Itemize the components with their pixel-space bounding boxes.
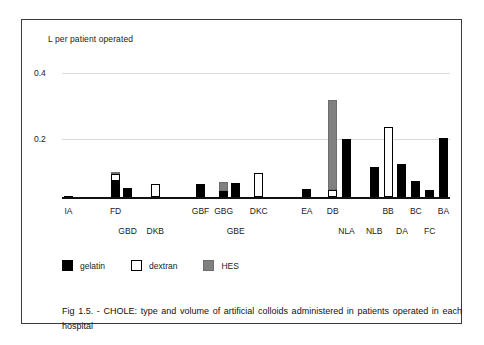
bar-nla <box>342 139 351 197</box>
bar-bb <box>384 127 393 197</box>
bar-segment-gelatin <box>397 164 406 197</box>
bar-fd <box>111 172 120 197</box>
bar-segment-gelatin <box>196 184 205 197</box>
legend-item-dextran: dextran <box>131 260 177 271</box>
legend-swatch-gelatin-icon <box>62 260 73 271</box>
bar-bc <box>411 181 420 197</box>
legend-label-gelatin: gelatin <box>80 261 105 271</box>
y-tick-0-4: 0.4 <box>34 68 60 78</box>
bar-db <box>328 100 337 197</box>
x-label-bc: BC <box>410 206 422 216</box>
x-label-nla: NLA <box>338 226 355 236</box>
bar-segment-hes <box>328 100 337 190</box>
x-label-dkc: DKC <box>250 206 268 216</box>
bar-segment-gelatin <box>370 167 379 197</box>
bar-series-container <box>62 30 450 197</box>
x-label-ba: BA <box>438 206 449 216</box>
x-label-dkb: DKB <box>147 226 164 236</box>
x-label-fd: FD <box>110 206 121 216</box>
bar-gbf <box>196 184 205 197</box>
bar-segment-gelatin <box>439 138 448 197</box>
bar-segment-dextran <box>151 184 160 197</box>
figure-caption: Fig 1.5. - CHOLE: type and volume of art… <box>62 304 462 334</box>
legend-label-hes: HES <box>221 261 238 271</box>
figure-frame: L per patient operated 0.4 0.2 IAFDGBDDK… <box>21 19 462 324</box>
x-label-ia: IA <box>64 206 72 216</box>
bar-segment-dextran <box>111 174 120 181</box>
bar-da <box>397 164 406 197</box>
bar-gbg <box>219 182 228 197</box>
x-label-ea: EA <box>301 206 312 216</box>
x-label-da: DA <box>396 226 408 236</box>
bar-segment-dextran <box>384 127 393 197</box>
x-label-bb: BB <box>382 206 393 216</box>
bar-segment-gelatin <box>302 189 311 197</box>
bar-gbd <box>123 188 132 197</box>
bar-segment-gelatin <box>231 183 240 197</box>
x-label-nlb: NLB <box>366 226 383 236</box>
legend-swatch-hes-icon <box>203 260 214 271</box>
bar-segment-gelatin <box>111 181 120 197</box>
x-label-gbg: GBG <box>214 206 233 216</box>
bar-nlb <box>370 167 379 197</box>
x-axis-baseline <box>62 197 450 199</box>
x-axis-labels: IAFDGBDDKBGBFGBGGBEDKCEADBNLANLBBBDABCFC… <box>62 201 450 245</box>
bar-dkb <box>151 184 160 197</box>
x-label-gbf: GBF <box>192 206 209 216</box>
bar-dkc <box>254 173 263 197</box>
chart-plot-area: L per patient operated 0.4 0.2 IAFDGBDDK… <box>34 30 450 245</box>
bar-fc <box>425 190 434 197</box>
x-label-db: DB <box>327 206 339 216</box>
figure-page: L per patient operated 0.4 0.2 IAFDGBDDK… <box>0 0 484 345</box>
x-label-gbe: GBE <box>227 226 245 236</box>
y-tick-0-2: 0.2 <box>34 134 60 144</box>
legend-item-hes: HES <box>203 260 238 271</box>
legend-item-gelatin: gelatin <box>62 260 105 271</box>
bar-segment-gelatin <box>411 181 420 197</box>
x-label-gbd: GBD <box>118 226 136 236</box>
bar-segment-gelatin <box>342 139 351 197</box>
bar-segment-gelatin <box>425 190 434 197</box>
bar-segment-hes <box>219 182 228 191</box>
chart-legend: gelatin dextran HES <box>62 260 265 271</box>
bar-gbe <box>231 183 240 197</box>
legend-label-dextran: dextran <box>149 261 177 271</box>
bar-ea <box>302 189 311 197</box>
bar-segment-gelatin <box>123 188 132 197</box>
bar-segment-dextran <box>254 173 263 197</box>
x-label-fc: FC <box>424 226 435 236</box>
bar-ba <box>439 138 448 197</box>
legend-swatch-dextran-icon <box>131 260 142 271</box>
bar-segment-dextran <box>328 190 337 197</box>
